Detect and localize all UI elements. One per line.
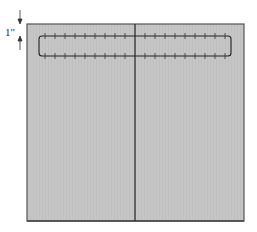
diagram-canvas: [0, 0, 257, 232]
measurement-arrows: [18, 10, 22, 50]
